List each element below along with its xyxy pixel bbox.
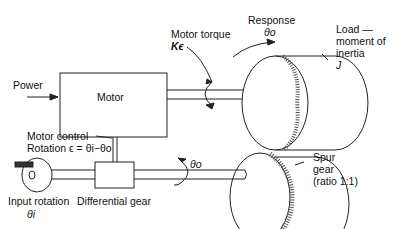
spur-label-3: (ratio 1:1): [313, 175, 358, 187]
load-label-3: inertia: [336, 47, 365, 59]
motor-control-label-1: Motor control: [27, 130, 88, 142]
differential-box: [95, 162, 134, 188]
response-label: Response: [248, 14, 295, 26]
input-rotation-label: Input rotation: [8, 195, 69, 207]
motor-torque-symbol: Kϵ: [171, 40, 184, 52]
spur-label-1: Spur: [313, 151, 335, 163]
motor-label: Motor: [97, 91, 124, 103]
response-symbol: θo: [264, 26, 276, 38]
motor-box: [60, 73, 167, 137]
spur-label-2: gear: [313, 163, 334, 175]
input-rotation-symbol: θi: [27, 208, 35, 220]
power-label: Power: [13, 79, 43, 91]
motor-torque-label: Motor torque: [171, 28, 231, 40]
load-label-1: Load —: [336, 23, 373, 35]
differential-gear-label: Differential gear: [77, 195, 151, 207]
theta-o-shaft-label: θo: [190, 158, 202, 170]
servo-diagram: Power Motor Motor torque Kϵ Response θo …: [0, 0, 394, 229]
load-symbol: J: [336, 59, 341, 71]
motor-control-label-2: Rotation ϵ = θi−θo: [27, 142, 112, 154]
load-label-2: moment of: [336, 35, 386, 47]
